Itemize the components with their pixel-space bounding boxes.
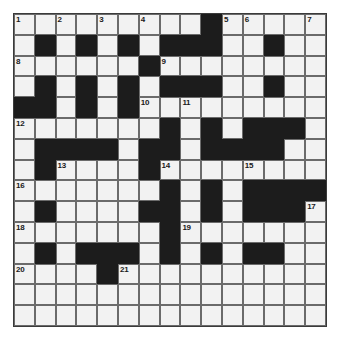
letter-cell[interactable]: [14, 243, 35, 264]
letter-cell[interactable]: [97, 118, 118, 139]
letter-cell[interactable]: [56, 56, 77, 77]
letter-cell[interactable]: [243, 264, 264, 285]
letter-cell[interactable]: [139, 180, 160, 201]
letter-cell[interactable]: [139, 222, 160, 243]
letter-cell[interactable]: [14, 76, 35, 97]
letter-cell[interactable]: [118, 284, 139, 305]
letter-cell[interactable]: [180, 180, 201, 201]
letter-cell[interactable]: [118, 56, 139, 77]
letter-cell[interactable]: [284, 97, 305, 118]
letter-cell[interactable]: [97, 305, 118, 326]
letter-cell[interactable]: [284, 222, 305, 243]
letter-cell[interactable]: [201, 56, 222, 77]
letter-cell[interactable]: [222, 201, 243, 222]
letter-cell[interactable]: 3: [97, 14, 118, 35]
letter-cell[interactable]: [264, 305, 285, 326]
letter-cell[interactable]: [305, 160, 326, 181]
letter-cell[interactable]: [305, 305, 326, 326]
letter-cell[interactable]: [76, 160, 97, 181]
letter-cell[interactable]: [243, 305, 264, 326]
letter-cell[interactable]: [201, 264, 222, 285]
letter-cell[interactable]: [284, 139, 305, 160]
letter-cell[interactable]: [243, 76, 264, 97]
letter-cell[interactable]: [76, 180, 97, 201]
letter-cell[interactable]: [243, 284, 264, 305]
letter-cell[interactable]: [14, 305, 35, 326]
letter-cell[interactable]: [97, 97, 118, 118]
letter-cell[interactable]: [139, 76, 160, 97]
letter-cell[interactable]: [56, 201, 77, 222]
letter-cell[interactable]: [243, 35, 264, 56]
letter-cell[interactable]: [56, 305, 77, 326]
letter-cell[interactable]: [139, 35, 160, 56]
letter-cell[interactable]: [305, 56, 326, 77]
letter-cell[interactable]: [76, 284, 97, 305]
letter-cell[interactable]: [284, 56, 305, 77]
letter-cell[interactable]: 15: [243, 160, 264, 181]
letter-cell[interactable]: [180, 56, 201, 77]
letter-cell[interactable]: [97, 201, 118, 222]
letter-cell[interactable]: [56, 35, 77, 56]
letter-cell[interactable]: [284, 160, 305, 181]
letter-cell[interactable]: [56, 180, 77, 201]
letter-cell[interactable]: [118, 118, 139, 139]
letter-cell[interactable]: [76, 305, 97, 326]
letter-cell[interactable]: [180, 160, 201, 181]
letter-cell[interactable]: [118, 201, 139, 222]
letter-cell[interactable]: [222, 97, 243, 118]
letter-cell[interactable]: [180, 264, 201, 285]
letter-cell[interactable]: [14, 139, 35, 160]
letter-cell[interactable]: [222, 76, 243, 97]
letter-cell[interactable]: [305, 139, 326, 160]
letter-cell[interactable]: 5: [222, 14, 243, 35]
letter-cell[interactable]: 1: [14, 14, 35, 35]
letter-cell[interactable]: 12: [14, 118, 35, 139]
letter-cell[interactable]: 2: [56, 14, 77, 35]
letter-cell[interactable]: [180, 305, 201, 326]
letter-cell[interactable]: [14, 201, 35, 222]
letter-cell[interactable]: [201, 160, 222, 181]
letter-cell[interactable]: [160, 264, 181, 285]
letter-cell[interactable]: 16: [14, 180, 35, 201]
letter-cell[interactable]: [264, 284, 285, 305]
letter-cell[interactable]: [264, 56, 285, 77]
letter-cell[interactable]: [160, 284, 181, 305]
letter-cell[interactable]: [97, 284, 118, 305]
letter-cell[interactable]: [56, 97, 77, 118]
letter-cell[interactable]: [305, 35, 326, 56]
letter-cell[interactable]: [180, 284, 201, 305]
letter-cell[interactable]: [222, 305, 243, 326]
letter-cell[interactable]: [284, 305, 305, 326]
letter-cell[interactable]: [222, 56, 243, 77]
letter-cell[interactable]: [76, 118, 97, 139]
letter-cell[interactable]: [56, 222, 77, 243]
letter-cell[interactable]: 11: [180, 97, 201, 118]
letter-cell[interactable]: [305, 76, 326, 97]
letter-cell[interactable]: [97, 56, 118, 77]
letter-cell[interactable]: [305, 284, 326, 305]
letter-cell[interactable]: [118, 305, 139, 326]
letter-cell[interactable]: [201, 305, 222, 326]
crossword-grid[interactable]: 123456789101112131415161718192021: [13, 13, 327, 327]
letter-cell[interactable]: [284, 284, 305, 305]
letter-cell[interactable]: [97, 76, 118, 97]
letter-cell[interactable]: [222, 160, 243, 181]
letter-cell[interactable]: [139, 118, 160, 139]
letter-cell[interactable]: [76, 56, 97, 77]
letter-cell[interactable]: [56, 243, 77, 264]
letter-cell[interactable]: [305, 264, 326, 285]
letter-cell[interactable]: [35, 284, 56, 305]
letter-cell[interactable]: [305, 222, 326, 243]
letter-cell[interactable]: [56, 76, 77, 97]
letter-cell[interactable]: [14, 284, 35, 305]
letter-cell[interactable]: [222, 264, 243, 285]
letter-cell[interactable]: [264, 264, 285, 285]
letter-cell[interactable]: [264, 160, 285, 181]
letter-cell[interactable]: 20: [14, 264, 35, 285]
letter-cell[interactable]: [118, 139, 139, 160]
letter-cell[interactable]: [284, 14, 305, 35]
letter-cell[interactable]: [284, 35, 305, 56]
letter-cell[interactable]: [201, 284, 222, 305]
letter-cell[interactable]: [284, 243, 305, 264]
letter-cell[interactable]: [97, 160, 118, 181]
